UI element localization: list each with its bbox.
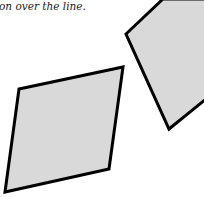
figure [0,0,204,198]
left-parallelogram [5,67,123,192]
right-quadrilateral [126,0,204,129]
